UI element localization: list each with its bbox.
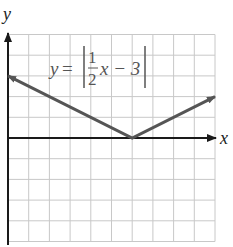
fraction-numerator: 1 — [88, 48, 97, 67]
y-axis-label: y — [1, 4, 11, 24]
fraction-denominator: 2 — [88, 70, 97, 89]
equation-rest: x − 3 — [99, 58, 140, 79]
equation-label: y = 1 2 x − 3 — [48, 46, 145, 89]
x-axis-label: x — [219, 128, 228, 148]
absolute-value-graph: y x y = 1 2 x − 3 — [0, 0, 233, 247]
equation-lhs: y — [48, 58, 59, 79]
equation-equals: = — [62, 58, 73, 79]
